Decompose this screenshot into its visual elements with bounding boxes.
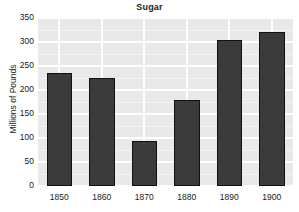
bar [217, 40, 243, 186]
y-tick-label: 100 [2, 133, 34, 142]
bar [174, 100, 200, 186]
bar [132, 141, 158, 186]
y-tick-label: 50 [2, 157, 34, 166]
y-tick-label: 150 [2, 109, 34, 118]
y-axis-tick-labels: 050100150200250300350 [0, 0, 34, 212]
bar [47, 73, 73, 186]
y-tick-label: 200 [2, 85, 34, 94]
bar [89, 78, 115, 186]
plot-area [38, 18, 293, 186]
y-tick-label: 300 [2, 37, 34, 46]
x-tick-label: 1850 [39, 192, 79, 202]
bar-chart: Sugar Millions of Pounds 050100150200250… [0, 0, 299, 212]
y-tick-label: 0 [2, 181, 34, 190]
bars-layer [38, 18, 293, 186]
chart-title: Sugar [0, 2, 299, 12]
x-tick-label: 1880 [167, 192, 207, 202]
x-tick-label: 1870 [124, 192, 164, 202]
bar [259, 32, 285, 186]
x-tick-label: 1860 [82, 192, 122, 202]
x-tick-label: 1900 [252, 192, 292, 202]
y-tick-label: 350 [2, 13, 34, 22]
x-tick-label: 1890 [209, 192, 249, 202]
y-tick-label: 250 [2, 61, 34, 70]
